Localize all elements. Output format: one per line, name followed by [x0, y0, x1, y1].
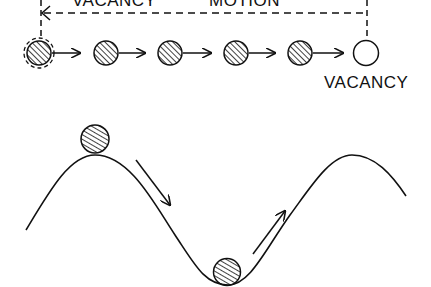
motion-label-top: MOTION: [209, 0, 280, 10]
vacancy-motion-bracket: VACANCY MOTION: [41, 0, 367, 38]
atom-3: [158, 41, 182, 65]
atom-chain: VACANCY: [24, 38, 408, 92]
atom-at-peak: [81, 125, 109, 153]
atom-1: [27, 41, 51, 65]
vacancy-label: VACANCY: [324, 73, 408, 92]
atom-2: [94, 41, 118, 65]
vacancy-motion-diagram: VACANCY MOTION VACANCY: [0, 0, 431, 287]
downhill-arrow-icon: [136, 160, 170, 205]
atom-4: [224, 41, 248, 65]
energy-landscape: [26, 125, 406, 286]
vacancy-site: [354, 41, 379, 66]
atom-at-trough: [214, 259, 241, 286]
vacancy-label-top: VACANCY: [72, 0, 156, 10]
atom-5: [288, 41, 312, 65]
